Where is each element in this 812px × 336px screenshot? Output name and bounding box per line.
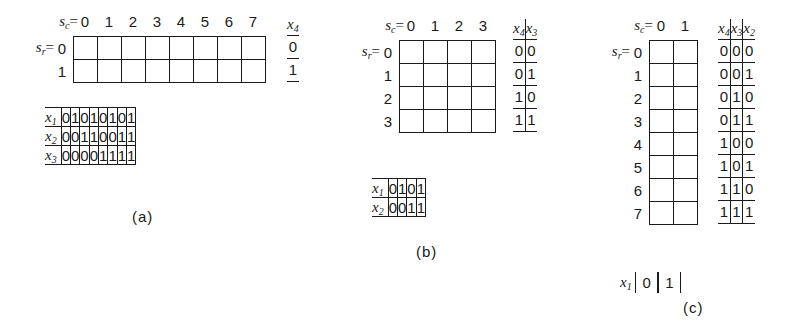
table-cell: 0 <box>99 108 108 127</box>
grid-cell[interactable] <box>218 37 242 60</box>
grid-cell[interactable] <box>448 87 472 110</box>
grid-cell[interactable] <box>74 60 98 83</box>
grid-cell[interactable] <box>194 60 218 83</box>
table-cell: 1 <box>108 108 117 127</box>
table-row: 0 <box>287 35 299 58</box>
grid-cell[interactable] <box>122 60 146 83</box>
grid-cell[interactable] <box>170 37 194 60</box>
part-a-row-header: 0 <box>38 40 66 57</box>
grid-cell[interactable] <box>424 110 448 133</box>
part-b-row-header: 2 <box>364 90 392 107</box>
part-a-col-header: 2 <box>121 13 145 30</box>
table-cell: 0 <box>71 146 80 165</box>
grid-cell[interactable] <box>400 110 424 133</box>
grid-cell[interactable] <box>472 64 496 87</box>
grid-cell[interactable] <box>674 110 698 133</box>
table-row: 0 0 1 <box>718 62 755 85</box>
grid-cell[interactable] <box>448 41 472 64</box>
grid-cell[interactable] <box>472 41 496 64</box>
table-cell: 1 <box>127 108 136 127</box>
table-cell: 0 <box>61 127 70 146</box>
grid-cell[interactable] <box>674 41 698 64</box>
part-b-col-selector-label: sc= <box>352 18 404 33</box>
grid-cell[interactable] <box>400 87 424 110</box>
part-a-side-table: x4 0 1 <box>287 15 299 82</box>
table-row: 0 1 <box>513 62 537 85</box>
grid-cell[interactable] <box>674 156 698 179</box>
part-c-side-header: x3 <box>730 19 743 39</box>
grid-cell[interactable] <box>170 60 194 83</box>
table-cell: 1 <box>743 154 755 177</box>
table-cell: 0 <box>730 131 743 154</box>
grid-cell[interactable] <box>674 133 698 156</box>
part-a-col-header: 0 <box>73 13 97 30</box>
grid-cell[interactable] <box>650 202 674 225</box>
grid-cell[interactable] <box>674 179 698 202</box>
grid-cell[interactable] <box>650 87 674 110</box>
part-b-col-header: 1 <box>423 17 447 34</box>
part-c-side-header: x4 <box>718 19 730 39</box>
part-b-caption: (b) <box>416 243 437 260</box>
grid-cell[interactable] <box>424 41 448 64</box>
part-b-row-header: 0 <box>364 44 392 61</box>
grid-cell[interactable] <box>448 110 472 133</box>
grid-cell[interactable] <box>146 60 170 83</box>
grid-cell[interactable] <box>650 64 674 87</box>
part-b-bottom-table: x1 0 1 0 1 x2 0 0 1 1 <box>372 178 426 217</box>
table-cell: 0 <box>388 198 397 217</box>
table-cell: 1 <box>407 198 416 217</box>
part-a-col-header: 4 <box>169 13 193 30</box>
grid-cell[interactable] <box>650 179 674 202</box>
part-c-row-header: 5 <box>614 159 642 176</box>
table-cell: 1 <box>718 177 730 200</box>
table-cell: 1 <box>416 198 425 217</box>
table-cell: 0 <box>525 85 537 108</box>
part-a-col-header: 3 <box>145 13 169 30</box>
table-cell: 1 <box>99 146 108 165</box>
table-cell: 0 <box>89 146 98 165</box>
grid-cell[interactable] <box>74 37 98 60</box>
grid-cell[interactable] <box>400 64 424 87</box>
table-row: 1 0 1 <box>718 154 755 177</box>
grid-cell[interactable] <box>146 37 170 60</box>
grid-cell[interactable] <box>98 37 122 60</box>
part-a-column-headers: 0 1 2 3 4 5 6 7 <box>73 13 265 30</box>
part-c-row-header: 6 <box>614 182 642 199</box>
grid-cell[interactable] <box>122 37 146 60</box>
table-cell: 0 <box>108 127 117 146</box>
grid-cell[interactable] <box>98 60 122 83</box>
grid-cell[interactable] <box>650 41 674 64</box>
table-cell: 0 <box>61 146 70 165</box>
part-b-side-table: x4 x3 0 0 0 1 1 0 1 1 <box>513 19 537 132</box>
table-row: x1 0 1 0 1 0 1 0 1 <box>45 108 136 127</box>
grid-cell[interactable] <box>424 64 448 87</box>
grid-cell[interactable] <box>472 110 496 133</box>
table-cell: 1 <box>108 146 117 165</box>
grid-cell[interactable] <box>424 87 448 110</box>
grid-cell[interactable] <box>674 87 698 110</box>
grid-cell[interactable] <box>242 37 266 60</box>
table-header-row: x4 x3 x2 <box>718 19 755 39</box>
table-row: 0 0 <box>513 39 537 62</box>
part-a-col-header: 1 <box>97 13 121 30</box>
grid-cell[interactable] <box>448 64 472 87</box>
grid-cell[interactable] <box>650 133 674 156</box>
grid-cell[interactable] <box>650 110 674 133</box>
table-cell: 1 <box>416 179 425 198</box>
part-b-col-header: 0 <box>399 17 423 34</box>
table-row: 1 <box>287 58 299 81</box>
table-header-row: x4 <box>287 15 299 35</box>
part-c-col-header: 0 <box>649 17 673 34</box>
grid-cell[interactable] <box>400 41 424 64</box>
grid-cell[interactable] <box>194 37 218 60</box>
grid-cell[interactable] <box>218 60 242 83</box>
grid-cell[interactable] <box>472 87 496 110</box>
table-row: 1 1 <box>513 108 537 131</box>
grid-cell[interactable] <box>650 156 674 179</box>
grid-cell[interactable] <box>674 64 698 87</box>
part-a-caption: (a) <box>132 208 153 225</box>
table-cell: 0 <box>80 108 89 127</box>
grid-cell[interactable] <box>242 60 266 83</box>
part-c-col-selector-label: sc= <box>601 18 653 33</box>
grid-cell[interactable] <box>674 202 698 225</box>
